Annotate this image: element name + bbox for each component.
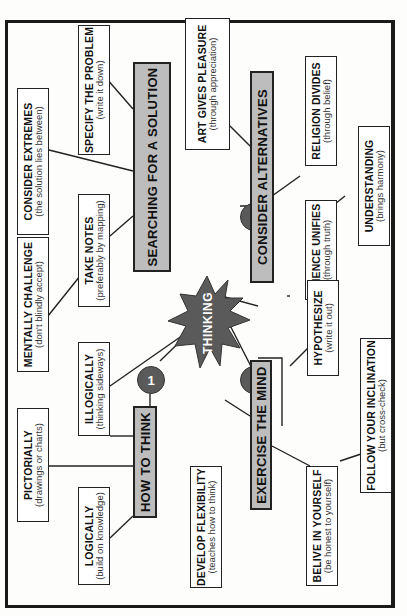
center-topic-label: THINKING (201, 292, 215, 354)
node-title: MENTALLY CHALLENGE (22, 242, 34, 367)
node-subtitle: (drawings or charts) (34, 423, 45, 507)
node-title: DEVELOP FLEXIBILITY (195, 468, 207, 586)
node-title: CONSIDER EXTREMES (22, 103, 34, 221)
node-subtitle: (don't blindly accept) (34, 261, 45, 348)
node-take-notes: TAKE NOTES (preferably by mapping) (78, 194, 110, 307)
node-illogically: ILLOGICALLY (thinking sideways) (78, 342, 110, 436)
mind-map-canvas: THINKING 1 2 3 4 HOW TO THINK SEARCHING … (0, 0, 407, 616)
node-title: FOLLOW YOUR INCLINATION (365, 340, 377, 491)
node-develop-flexibility: DEVELOP FLEXIBILITY (teaches how to thin… (190, 466, 222, 588)
node-pictorially: PICTORIALLY (drawings or charts) (17, 408, 49, 522)
node-title: HYPOTHESIZE (312, 290, 324, 365)
node-title: LOGICALLY (83, 506, 95, 567)
node-specify-the-problem: SPECIFY THE PROBLEM (write it down) (78, 25, 110, 155)
node-subtitle: (through truth) (322, 220, 333, 280)
branch-header-consider-alternatives: CONSIDER ALTERNATIVES (250, 71, 274, 283)
node-logically: LOGICALLY (build on knowledge) (78, 487, 110, 585)
branch-header-how-to-think: HOW TO THINK (133, 406, 157, 518)
node-understanding: UNDERSTANDING (brings harmony) (358, 126, 390, 246)
branch-badge-1: 1 (137, 366, 165, 394)
node-subtitle: (write it out) (324, 303, 335, 353)
node-subtitle: (build on knowledge) (95, 492, 106, 580)
branch-header-exercise-mind: EXERCISE THE MIND (250, 360, 272, 510)
node-religion-divides: RELIGION DIVIDES (through belief) (305, 56, 337, 166)
node-subtitle: (brings harmony) (375, 150, 386, 222)
node-title: ILLOGICALLY (83, 354, 95, 424)
node-subtitle: (preferably by mapping) (95, 200, 106, 300)
node-title: SPECIFY THE PROBLEM (83, 27, 95, 153)
node-subtitle: (through appreciation) (208, 38, 219, 131)
node-subtitle: (teaches how to think) (207, 481, 218, 574)
node-subtitle: (the solution lies between) (34, 106, 45, 216)
node-subtitle: (but cross-check) (377, 379, 388, 452)
node-title: TAKE NOTES (83, 217, 95, 285)
node-follow-your-inclination: FOLLOW YOUR INCLINATION (but cross-check… (360, 338, 392, 493)
node-subtitle: (thinking sideways) (95, 349, 106, 430)
node-title: RELIGION DIVIDES (310, 62, 322, 159)
node-consider-extremes: CONSIDER EXTREMES (the solution lies bet… (17, 88, 49, 235)
node-title: BELIVE IN YOURSELF (311, 469, 323, 582)
node-title: PICTORIALLY (22, 430, 34, 500)
node-art-gives-pleasure: ART GIVES PLEASURE (through appreciation… (185, 18, 230, 150)
node-subtitle: (be honest to yourself) (323, 479, 334, 574)
branch-header-searching: SEARCHING FOR A SOLUTION (133, 62, 171, 272)
node-title: UNDERSTANDING (363, 140, 375, 233)
node-mentally-challenge: MENTALLY CHALLENGE (don't blindly accept… (17, 237, 49, 372)
node-belive-in-yourself: BELIVE IN YOURSELF (be honest to yoursel… (306, 466, 338, 586)
node-hypothesize: HYPOTHESIZE (write it out) (307, 280, 339, 376)
node-subtitle: (through belief) (322, 79, 333, 143)
node-subtitle: (write it down) (95, 60, 106, 119)
